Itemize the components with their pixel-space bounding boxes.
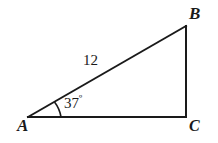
angle-value-text: 37 xyxy=(64,95,79,111)
angle-arc-a xyxy=(55,102,62,117)
degree-symbol-icon: º xyxy=(79,93,82,104)
vertex-label-a: A xyxy=(17,117,28,134)
triangle-diagram: A B C 12 37º xyxy=(0,0,218,143)
side-ab-line xyxy=(28,26,186,117)
angle-measure-label-a: 37º xyxy=(64,96,82,111)
side-length-label-ab: 12 xyxy=(83,53,98,68)
vertex-label-c: C xyxy=(189,118,200,134)
triangle-drawing xyxy=(0,0,218,143)
vertex-label-b: B xyxy=(189,5,200,22)
